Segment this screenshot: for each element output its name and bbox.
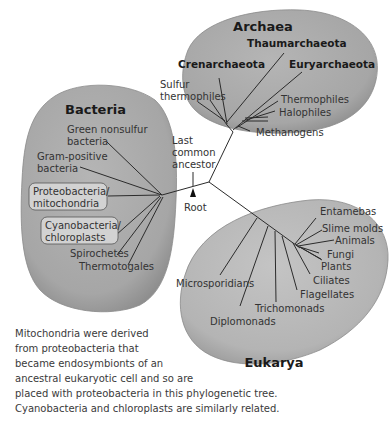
caption-line: Cyanobacteria and chloroplasts are simil… <box>15 401 392 416</box>
bacteria-title: Bacteria <box>65 102 126 117</box>
label-euryarchaeota: Euryarchaeota <box>289 58 375 70</box>
caption-line: Mitochondria were derived <box>15 326 392 341</box>
label-trichomonads: Trichomonads <box>254 303 324 314</box>
label-sulfur: Sulfur <box>160 79 190 90</box>
label-fungi: Fungi <box>327 249 354 260</box>
label-thermophiles-sulfur: thermophiles <box>160 91 226 102</box>
label-green-nonsulfur: Green nonsulfur <box>67 124 148 135</box>
root-marker-icon <box>190 188 196 197</box>
label-halophiles: Halophiles <box>279 107 331 118</box>
caption-line: became endosymbionts of an <box>15 356 392 371</box>
label-lca-1: Last <box>172 135 193 146</box>
label-gram-positive-bacteria: bacteria <box>37 163 78 174</box>
label-flagellates: Flagellates <box>300 289 354 300</box>
label-gram-positive: Gram-positive <box>37 151 108 162</box>
label-spirochetes: Spirochetes <box>70 248 129 259</box>
archaea-title: Archaea <box>233 19 293 34</box>
box-cyanobacteria: Cyanobacteria/ chloroplasts <box>41 217 122 244</box>
label-ciliates: Ciliates <box>313 275 350 286</box>
caption-line: placed with proteobacteria in this phylo… <box>15 386 392 401</box>
label-cyanobacteria: Cyanobacteria/ <box>45 220 122 231</box>
label-thermophiles: Thermophiles <box>280 94 349 105</box>
label-mitochondria: mitochondria <box>33 198 99 209</box>
label-root: Root <box>184 202 207 213</box>
caption-line: from proteobacteria that <box>15 341 392 356</box>
label-animals: Animals <box>335 235 375 246</box>
label-crenarchaeota: Crenarchaeota <box>178 58 265 70</box>
label-entamebas: Entamebas <box>320 206 376 217</box>
box-proteobacteria: Proteobacteria/ mitochondria <box>29 183 110 210</box>
label-green-nonsulfur-bacteria: bacteria <box>67 136 108 147</box>
label-chloroplasts: chloroplasts <box>45 232 105 243</box>
label-microsporidians: Microsporidians <box>176 278 254 289</box>
caption-line: ancestral eukaryotic cell and so are <box>15 371 392 386</box>
label-lca-3: ancestor <box>172 159 216 170</box>
label-lca-2: common <box>172 147 216 158</box>
label-plants: Plants <box>321 261 351 272</box>
label-thermotogales: Thermotogales <box>78 261 154 272</box>
label-thaumarchaeota: Thaumarchaeota <box>247 37 347 49</box>
label-proteobacteria: Proteobacteria/ <box>33 186 110 197</box>
caption: Mitochondria were derived from proteobac… <box>15 326 392 416</box>
label-methanogens: Methanogens <box>256 127 324 138</box>
label-slime-molds: Slime molds <box>322 223 383 234</box>
